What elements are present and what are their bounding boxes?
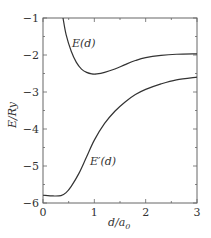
curve-label-Eprime: E′(d)	[89, 155, 116, 168]
tick-label: 1	[91, 206, 98, 219]
tick-label: −6	[23, 197, 39, 210]
plot-frame	[43, 18, 197, 203]
tick-label: 2	[142, 206, 149, 219]
axis-ticks	[43, 18, 197, 203]
series-Eprime	[43, 77, 197, 196]
tick-label: 0	[40, 206, 47, 219]
chart: 0123−1−2−3−4−5−6 E(d) E′(d) d/a0 E/Ry	[0, 0, 211, 238]
tick-label: −3	[23, 86, 39, 99]
curve-label-E: E(d)	[71, 37, 96, 50]
tick-label: −2	[23, 49, 39, 62]
y-axis-label: E/Ry	[6, 101, 19, 129]
tick-label: 3	[194, 206, 201, 219]
tick-label: −5	[23, 160, 39, 173]
tick-label: −1	[23, 12, 39, 25]
tick-label: −4	[23, 123, 39, 136]
x-axis-label: d/a0	[108, 216, 130, 231]
